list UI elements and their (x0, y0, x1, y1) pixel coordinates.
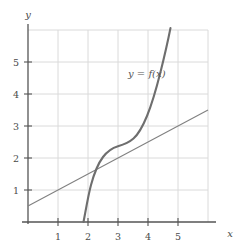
x-tick-label: 1 (55, 231, 61, 242)
x-axis-label: x (227, 228, 233, 239)
x-tick-label: 4 (145, 231, 151, 242)
y-tick-label: 4 (13, 89, 19, 100)
curve-label: y = f(x) (127, 68, 166, 79)
x-tick-labels: 1 2 3 4 5 (55, 231, 181, 242)
y-tick-labels: 1 2 3 4 5 (13, 57, 19, 196)
y-tick-label: 2 (13, 153, 19, 164)
chart-figure: 1 2 3 4 5 1 2 3 4 5 y x y = f(x) (0, 0, 245, 251)
y-tick-label: 3 (13, 121, 19, 132)
plot-area: 1 2 3 4 5 1 2 3 4 5 y x y = f(x) (0, 0, 245, 251)
y-tick-label: 1 (13, 185, 19, 196)
x-tick-label: 3 (115, 231, 121, 242)
x-tick-label: 2 (85, 231, 91, 242)
y-axis-label: y (24, 9, 31, 20)
series-fx-curve (84, 28, 171, 222)
y-tick-label: 5 (13, 57, 19, 68)
x-tick-label: 5 (175, 231, 181, 242)
